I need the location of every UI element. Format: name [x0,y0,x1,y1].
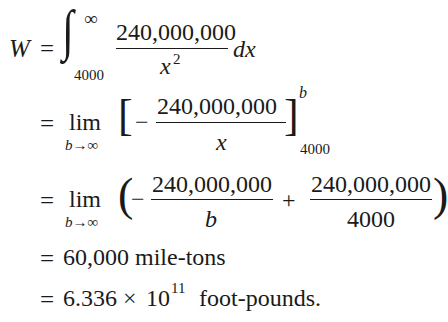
integral-sign: ∫ [62,2,74,58]
denominator-2: 4000 [347,207,395,231]
close-paren: ) [433,172,448,218]
equals-sign: = [40,36,54,61]
differential: dx [233,37,256,61]
lower-limit: 4000 [74,68,104,83]
close-bracket: ] [284,94,299,138]
minus-sign: − [135,110,149,134]
fraction-bar [156,122,286,123]
equals-sign: = [40,188,54,213]
result-foot-pounds: foot-pounds. [199,286,321,310]
denominator-variable: x [160,54,171,78]
upper-evaluation-limit: b [299,85,307,101]
result-mile-tons: 60,000 mile-tons [63,245,226,269]
denominator: x [216,130,227,154]
minus-sign: − [131,187,145,211]
equals-sign: = [40,246,54,271]
numerator-2: 240,000,000 [311,172,431,196]
denominator-exponent: 2 [173,52,181,67]
fraction-bar-2 [310,199,432,200]
limit-subscript: b→∞ [65,138,98,153]
numerator-1: 240,000,000 [152,172,272,196]
upper-limit: ∞ [84,9,98,28]
plus-sign: + [282,188,296,212]
equals-sign: = [40,111,54,136]
numerator: 240,000,000 [157,94,277,118]
lower-evaluation-limit: 4000 [300,142,330,157]
power-exponent: 11 [171,281,185,296]
limit-operator: lim [69,187,101,211]
fraction-bar-1 [151,199,273,200]
denominator-1: b [205,207,217,231]
equals-sign: = [40,287,54,312]
open-bracket: [ [118,94,133,138]
work-variable: W [9,36,30,61]
limit-subscript: b→∞ [65,215,98,230]
mantissa: 6.336 × [63,286,137,310]
power-base: 10 [146,286,170,310]
limit-operator: lim [69,110,101,134]
fraction-bar [116,48,228,49]
numerator: 240,000,000 [116,20,236,44]
